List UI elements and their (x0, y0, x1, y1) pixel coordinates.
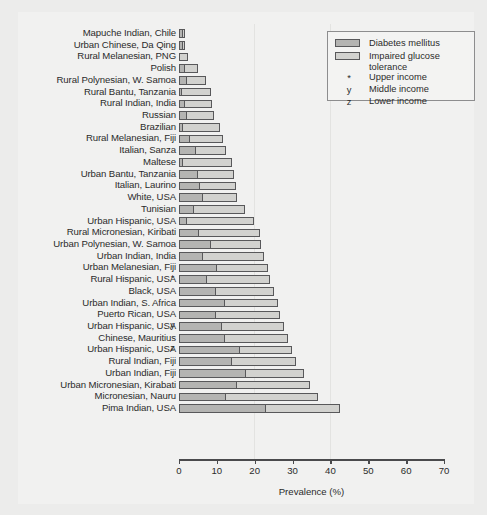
bar-row-label: Italian, Sanza (0, 144, 176, 156)
bar-row-label: Urban Indian, India (0, 250, 176, 262)
legend-label-upper-income: Upper income (369, 72, 427, 83)
bar-segment-diabetes (179, 229, 199, 238)
bar-segment-diabetes (179, 182, 200, 191)
stacked-bar (179, 111, 215, 120)
bar-row-label: Rural Melanesian, Fiji (0, 132, 176, 144)
bar-segment-igt (198, 229, 260, 238)
stacked-bar (179, 252, 265, 261)
x-tick-label: 30 (278, 465, 308, 476)
bar-segment-igt (184, 64, 198, 73)
bar-row-label: Rural Indian, India (0, 97, 176, 109)
stacked-bar (179, 393, 319, 402)
stacked-bar (179, 29, 185, 38)
x-tick-label: 0 (164, 465, 194, 476)
bar-row-label: Rural Polynesian, W. Samoa (0, 74, 176, 86)
bar-segment-igt (181, 88, 211, 97)
bar-segment-igt (225, 393, 318, 402)
bar-segment-igt (216, 264, 268, 273)
bar-segment-diabetes (179, 146, 196, 155)
x-tick (293, 459, 294, 464)
bar-row-label: Urban Hispanic, USA (0, 320, 176, 332)
bar-segment-igt (199, 182, 236, 191)
stacked-bar (179, 404, 341, 413)
bar-segment-diabetes (179, 299, 225, 308)
bar-row-label: Rural Hispanic, USA (0, 273, 176, 285)
bar-row-label: Rural Bantu, Tanzania (0, 86, 176, 98)
income-mark: z (168, 343, 177, 355)
bar-row-label: Urban Bantu, Tanzania (0, 168, 176, 180)
x-tick-label: 10 (202, 465, 232, 476)
stacked-bar (179, 135, 224, 144)
bar-segment-diabetes (179, 393, 226, 402)
legend-symbol-y-icon: y (343, 85, 355, 96)
bar-segment-igt (184, 100, 212, 109)
bar-row-label: Urban Chinese, Da Qing (0, 39, 176, 51)
bar-segment-diabetes (179, 170, 198, 179)
chart-page: Mapuche Indian, ChileUrban Chinese, Da Q… (0, 0, 487, 515)
stacked-bar (179, 53, 188, 62)
stacked-bar (179, 287, 275, 296)
bar-row-label: Russian (0, 109, 176, 121)
stacked-bar (179, 369, 305, 378)
legend-swatch-igt-icon (335, 52, 360, 60)
stacked-bar (179, 311, 281, 320)
stacked-bar (179, 100, 213, 109)
bar-segment-igt (206, 275, 270, 284)
bar-segment-igt (221, 322, 284, 331)
bar-row-label: Rural Melanesian, PNG (0, 50, 176, 62)
bar-segment-igt (215, 287, 274, 296)
stacked-bar (179, 170, 235, 179)
bar-segment-diabetes (179, 346, 240, 355)
bar-segment-igt (182, 158, 232, 167)
bar-segment-igt (265, 404, 340, 413)
bar-segment-igt (186, 111, 214, 120)
stacked-bar (179, 146, 227, 155)
bar-segment-igt (236, 381, 310, 390)
stacked-bar (179, 346, 293, 355)
bar-segment-igt (182, 41, 185, 50)
bar-segment-igt (245, 369, 304, 378)
bar-segment-igt (179, 53, 188, 62)
legend-label-lower-income: Lower income (369, 96, 427, 107)
bar-segment-diabetes (179, 404, 266, 413)
legend-symbol-asterisk-icon: * (343, 73, 355, 84)
bar-row-label: Black, USA (0, 285, 176, 297)
bar-segment-igt (231, 357, 296, 366)
stacked-bar (179, 158, 233, 167)
bar-row-label: Urban Polynesian, W. Samoa (0, 238, 176, 250)
stacked-bar (179, 381, 312, 390)
x-tick (179, 459, 180, 464)
bar-segment-diabetes (179, 311, 216, 320)
stacked-bar (179, 334, 289, 343)
bar-segment-diabetes (179, 369, 246, 378)
bar-segment-igt (197, 170, 235, 179)
legend-swatch-diabetes-icon (335, 39, 360, 47)
x-tick (444, 459, 445, 464)
bar-row-label: Maltese (0, 156, 176, 168)
bar-segment-igt (202, 193, 238, 202)
x-tick (217, 459, 218, 464)
bar-segment-diabetes (179, 357, 232, 366)
bar-row-label: Micronesian, Nauru (0, 390, 176, 402)
bar-segment-diabetes (179, 275, 207, 284)
bar-segment-igt (193, 205, 244, 214)
bar-segment-igt (182, 29, 185, 38)
stacked-bar (179, 88, 212, 97)
bar-row-label: Urban Hispanic, USA (0, 215, 176, 227)
stacked-bar (179, 240, 262, 249)
prevalence-bar-chart: Mapuche Indian, ChileUrban Chinese, Da Q… (0, 0, 487, 515)
stacked-bar (179, 322, 285, 331)
stacked-bar (179, 299, 279, 308)
bar-segment-igt (210, 240, 261, 249)
legend-label-middle-income: Middle income (369, 84, 429, 95)
stacked-bar (179, 76, 207, 85)
stacked-bar (179, 64, 199, 73)
legend-label-igt: Impaired glucose (369, 51, 440, 62)
chart-legend: Diabetes mellitus Impaired glucose toler… (327, 31, 475, 101)
bar-segment-diabetes (179, 287, 216, 296)
bar-segment-diabetes (179, 322, 222, 331)
bar-segment-igt (186, 76, 206, 85)
stacked-bar (179, 123, 221, 132)
bar-row-label: Puerto Rican, USA (0, 308, 176, 320)
bar-row-label: Mapuche Indian, Chile (0, 27, 176, 39)
